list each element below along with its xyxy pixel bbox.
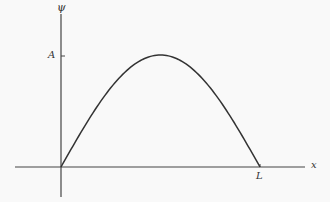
plot-svg (0, 0, 330, 202)
length-label: L (256, 170, 263, 181)
x-axis-label: x (311, 159, 317, 170)
diagram: ψ x A L (0, 0, 330, 202)
y-axis-label: ψ (57, 1, 66, 14)
sine-curve (61, 55, 260, 167)
amplitude-label: A (48, 49, 55, 60)
